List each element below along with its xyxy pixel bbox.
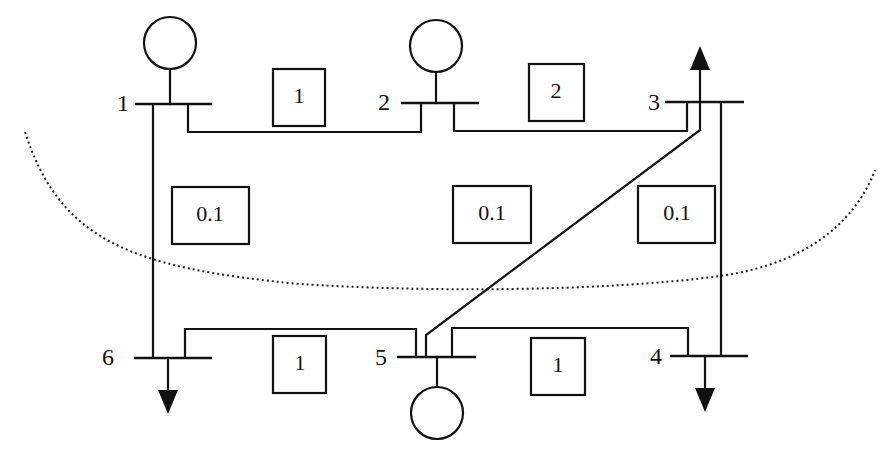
line-value: 0.1 [663,200,691,225]
power-network-diagram: 1 2 3 6 5 4 1 [0,0,885,460]
line-value: 0.1 [196,201,224,226]
line-value: 1 [294,83,305,108]
load-arrow-down-icon [158,390,178,414]
bus-label: 6 [102,344,114,370]
line-1-6: 0.1 [153,104,249,358]
bus-1: 1 [117,17,212,116]
bus-label: 2 [378,89,390,115]
bus-3: 3 [648,46,744,130]
bus-label: 1 [117,90,129,116]
generator-icon [411,387,463,439]
bus-2: 2 [378,20,479,115]
bus-4: 4 [650,343,748,412]
load-arrow-down-icon [695,388,715,412]
line-value: 0.1 [478,200,506,225]
bus-5: 5 [375,344,476,439]
bus-label: 5 [375,344,387,370]
load-arrow-up-icon [690,46,710,70]
generator-icon [144,17,196,69]
line-value: 2 [551,78,562,103]
line-value: 1 [295,350,306,375]
line-3-4: 0.1 [638,102,721,356]
bus-label: 3 [648,89,660,115]
bus-label: 4 [650,343,662,369]
line-value: 1 [553,352,564,377]
bus-6: 6 [102,344,212,414]
generator-icon [410,20,462,72]
